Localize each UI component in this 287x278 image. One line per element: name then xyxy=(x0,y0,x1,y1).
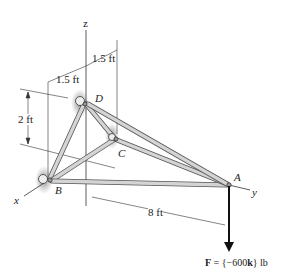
y-axis-label: y xyxy=(252,187,257,198)
dimension-lines xyxy=(20,40,225,225)
dimension-length: 8 ft xyxy=(148,207,163,218)
dimension-height: 2 ft xyxy=(18,114,33,125)
point-a-label: A xyxy=(234,172,241,183)
joint-b xyxy=(48,178,52,182)
truss-members xyxy=(50,104,227,185)
point-d-label: D xyxy=(95,93,103,104)
y-axis xyxy=(229,185,250,190)
joint-c xyxy=(114,137,118,141)
point-c-label: C xyxy=(118,148,125,159)
space-truss-diagram xyxy=(0,0,287,278)
force-unit: } lb xyxy=(253,257,268,268)
dimension-left-offset: 1.5 ft xyxy=(56,74,79,85)
dimension-top-offset: 1.5 ft xyxy=(92,53,115,64)
z-axis-label: z xyxy=(83,18,88,29)
force-value: = {−600 xyxy=(211,257,247,268)
support-ball-b xyxy=(39,175,48,184)
force-label: F = {−600k} lb xyxy=(205,258,268,268)
point-b-label: B xyxy=(55,185,62,196)
force-arrow xyxy=(224,186,234,252)
x-axis-label: x xyxy=(14,195,19,206)
joint-d xyxy=(83,102,87,106)
